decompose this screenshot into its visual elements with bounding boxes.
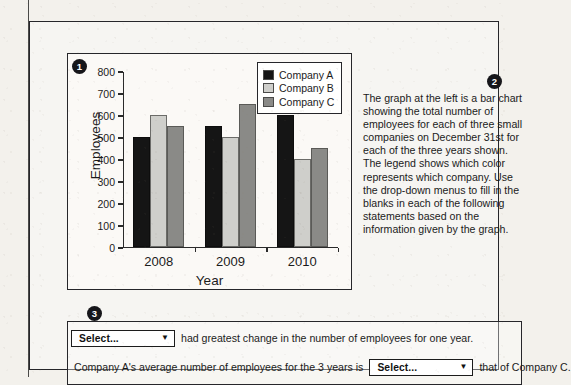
y-tick-label: 600 [97,110,115,122]
y-tick-label: 800 [97,66,115,78]
y-tick [118,71,123,72]
chevron-down-icon: ▼ [459,363,467,371]
bar-group-2008 [133,115,184,247]
legend-label: Company B [279,82,334,94]
bar-company-c-2009 [239,104,256,247]
y-tick-label: 400 [97,154,115,166]
y-tick [118,203,123,204]
bar-group-2009 [205,104,256,247]
question-container: 1 2 3 Employees 010020030040050060070080… [29,21,499,370]
bar-company-c-2008 [167,126,184,247]
legend-label: Company C [279,96,334,108]
x-tick-label: 2010 [288,254,317,269]
y-tick [118,93,123,94]
badge-two: 2 [487,74,502,89]
description-text: The graph at the left is a bar chart sho… [363,92,523,236]
y-tick-label: 700 [97,88,115,100]
x-tick [266,248,267,252]
legend-swatch-icon [263,70,274,80]
statement-row-2: Company A's average number of employees … [68,355,527,379]
bar-company-b-2008 [150,115,167,247]
y-tick [118,225,123,226]
x-axis-line [123,247,338,248]
y-tick [118,181,123,182]
y-tick [118,159,123,160]
chart-legend: Company ACompany BCompany C [257,62,342,114]
x-axis-label: Year [68,273,351,288]
y-tick-label: 200 [97,198,115,210]
bar-company-a-2009 [205,126,222,247]
x-tick [195,248,196,252]
statement-row-1: Select... ▼ had greatest change in the n… [68,326,524,350]
dropdown-2-value: Select... [377,362,417,373]
y-axis-line [123,72,124,248]
y-tick-label: 500 [97,132,115,144]
legend-entry: Company C [263,96,334,108]
bar-company-c-2010 [311,148,328,247]
legend-swatch-icon [263,83,274,93]
legend-label: Company A [279,69,333,81]
legend-swatch-icon [263,97,274,107]
x-tick [338,248,339,252]
legend-entry: Company A [263,69,334,81]
x-tick-label: 2008 [144,254,173,269]
y-tick-label: 0 [109,242,115,254]
statement-2-text-after: that of Company C. [479,361,570,373]
bar-company-a-2010 [277,115,294,247]
bar-chart: Employees 0100200300400500600700800 2008… [67,53,352,290]
y-tick-label: 300 [97,176,115,188]
y-tick [118,247,123,248]
x-tick-label: 2009 [216,254,245,269]
legend-entry: Company B [263,82,334,94]
bar-company-a-2008 [133,137,150,247]
bar-group-2010 [277,115,328,247]
y-tick-label: 100 [97,220,115,232]
badge-one: 1 [72,59,87,74]
badge-three: 3 [87,306,102,321]
chevron-down-icon: ▼ [161,334,169,342]
y-tick [118,115,123,116]
dropdown-1-value: Select... [79,333,119,344]
dropdown-statement-2[interactable]: Select... ▼ [369,359,473,376]
statement-2-text-before: Company A's average number of employees … [74,361,363,373]
bar-company-b-2009 [222,137,239,247]
dropdown-statement-1[interactable]: Select... ▼ [71,330,175,347]
statements-container: Select... ▼ had greatest change in the n… [67,321,522,385]
y-tick [118,137,123,138]
statement-1-text: had greatest change in the number of emp… [181,332,473,344]
bar-company-b-2010 [294,159,311,247]
